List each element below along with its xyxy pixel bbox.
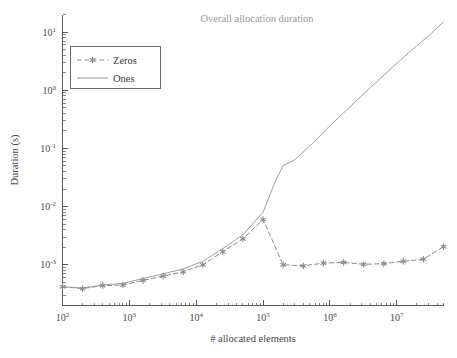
y-axis-title: Duration (s) — [9, 134, 21, 186]
chart-figure: 102103104105106107 10110010-110-210-3 # … — [0, 0, 457, 358]
x-tick-label: 104 — [189, 311, 203, 323]
chart-legend[interactable]: ZerosOnes — [71, 47, 161, 89]
data-point-marker — [261, 217, 266, 223]
series-line-zeros — [63, 220, 444, 289]
data-point-marker — [241, 236, 246, 242]
y-tick-label: 101 — [43, 26, 57, 38]
data-point-marker — [200, 262, 205, 268]
x-tick-label: 102 — [56, 311, 70, 323]
legend-label-zeros: Zeros — [113, 55, 137, 66]
x-axis-title: # allocated elements — [210, 333, 296, 344]
y-axis-tick-labels: 10110010-110-210-3 — [40, 26, 56, 271]
data-point-marker — [441, 244, 446, 250]
y-tick-label: 10-3 — [40, 258, 56, 270]
x-axis-tick-labels: 102103104105106107 — [56, 311, 404, 323]
y-tick-label: 100 — [43, 84, 57, 96]
x-tick-label: 106 — [323, 311, 337, 323]
series-zeros — [60, 217, 446, 292]
x-axis-major-ticks — [63, 300, 397, 306]
y-tick-label: 10-2 — [40, 200, 56, 212]
y-tick-label: 10-1 — [40, 142, 56, 154]
allocation-duration-chart: 102103104105106107 10110010-110-210-3 # … — [0, 0, 457, 358]
x-tick-label: 107 — [390, 311, 404, 323]
x-tick-label: 105 — [256, 311, 270, 323]
chart-title: Overall allocation duration — [200, 13, 314, 24]
legend-label-ones: Ones — [113, 73, 135, 84]
x-tick-label: 103 — [123, 311, 137, 323]
